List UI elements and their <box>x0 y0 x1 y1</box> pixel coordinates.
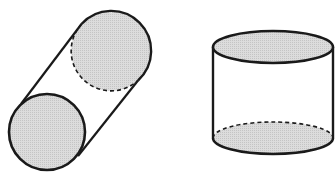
tilted-cylinder <box>9 11 151 170</box>
tilted-cylinder-side-left <box>21 24 82 104</box>
cylinders-diagram <box>0 0 335 179</box>
upright-cylinder-top-face <box>213 31 333 63</box>
upright-cylinder <box>213 31 333 154</box>
figure-canvas <box>0 0 335 179</box>
tilted-cylinder-bottom-face <box>9 94 85 170</box>
tilted-cylinder-side-right <box>78 81 138 157</box>
